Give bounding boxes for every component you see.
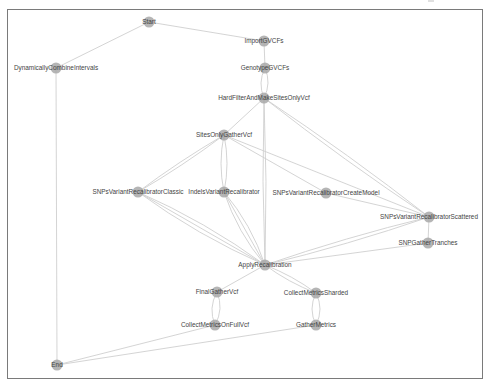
node-label: FinalGatherVcf <box>196 288 239 295</box>
edge-indels-to-apply <box>224 192 265 265</box>
node-label: HardFilterAndMakeSitesOnlyVcf <box>218 94 310 102</box>
node-label: ImportGVCFs <box>244 37 283 45</box>
edge-dci-to-end <box>56 68 57 365</box>
node-label: SNPsVariantRecalibratorCreateModel <box>272 189 379 196</box>
node-label: SNPGatherTranches <box>398 239 457 246</box>
node-start[interactable]: Start <box>142 17 156 28</box>
edge-sitesonly-to-snpscattered <box>224 135 429 217</box>
node-label: IndelsVariantRecalibrator <box>188 188 260 195</box>
node-snpscattered[interactable]: SNPsVariantRecalibratorScattered <box>380 212 478 223</box>
edge-hardfilter-to-snpscattered <box>264 98 429 217</box>
node-label: GenotypeGVCFs <box>241 64 290 72</box>
node-label: SNPsVariantRecalibratorClassic <box>92 188 184 195</box>
edge-hardfilter-to-snpscattered <box>264 98 429 217</box>
node-label: DynamicallyCombineIntervals <box>14 64 98 72</box>
node-hardfilter[interactable]: HardFilterAndMakeSitesOnlyVcf <box>218 93 310 104</box>
edge-sitesonly-to-snpcreate <box>224 135 326 193</box>
node-end[interactable]: End <box>51 360 63 371</box>
node-gathermetrics[interactable]: GatherMetrics <box>296 320 336 331</box>
edge-sitesonly-to-indels <box>224 135 227 192</box>
node-sitesonly[interactable]: SitesOnlyGatherVcf <box>196 130 252 141</box>
edge-hardfilter-to-sitesonly <box>224 98 264 135</box>
node-cmsharded[interactable]: CollectMetricsSharded <box>284 288 349 299</box>
node-finalgather[interactable]: FinalGatherVcf <box>196 287 239 298</box>
node-snpcreate[interactable]: SNPsVariantRecalibratorCreateModel <box>272 188 379 199</box>
node-label: GatherMetrics <box>296 321 336 328</box>
node-dci[interactable]: DynamicallyCombineIntervals <box>14 63 98 74</box>
node-label: End <box>51 361 63 368</box>
node-import[interactable]: ImportGVCFs <box>244 36 283 47</box>
node-snpgather[interactable]: SNPGatherTranches <box>398 238 457 249</box>
node-label: SNPsVariantRecalibratorScattered <box>380 213 478 220</box>
edge-cmfull-to-end <box>57 325 215 365</box>
node-label: Start <box>142 18 156 25</box>
node-apply[interactable]: ApplyRecalibration <box>238 260 292 271</box>
node-cmfull[interactable]: CollectMetricsOnFullVcf <box>181 320 249 331</box>
edge-snpclassic-to-apply <box>138 192 265 265</box>
node-indels[interactable]: IndelsVariantRecalibrator <box>188 187 260 198</box>
node-snpclassic[interactable]: SNPsVariantRecalibratorClassic <box>92 187 184 198</box>
node-label: CollectMetricsOnFullVcf <box>181 321 249 328</box>
graph-nodes: StartImportGVCFsDynamicallyCombineInterv… <box>14 17 478 371</box>
node-label: SitesOnlyGatherVcf <box>196 131 252 139</box>
node-genotype[interactable]: GenotypeGVCFs <box>241 63 290 74</box>
node-label: ApplyRecalibration <box>238 261 292 269</box>
node-label: CollectMetricsSharded <box>284 289 349 296</box>
edge-start-to-dci <box>56 22 149 68</box>
edge-gathermetrics-to-end <box>57 325 316 365</box>
edge-sitesonly-to-snpclassic <box>138 135 224 192</box>
edge-sitesonly-to-snpclassic <box>138 135 224 192</box>
workflow-graph[interactable]: StartImportGVCFsDynamicallyCombineInterv… <box>0 0 488 383</box>
edge-sitesonly-to-indels <box>221 135 224 192</box>
